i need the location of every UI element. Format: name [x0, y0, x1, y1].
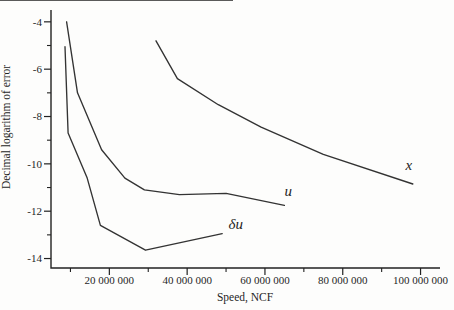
y-tick-label: -6 [33, 63, 43, 75]
curve-label-delta-u: δu [229, 216, 243, 232]
x-tick-label: 40 000 000 [162, 274, 212, 286]
y-tick-label: -14 [27, 252, 42, 264]
y-axis-title: Decimal logarithm of error [0, 65, 13, 189]
x-tick-label: 20 000 000 [85, 274, 135, 286]
series-line-x [156, 41, 413, 184]
x-tick-label: 60 000 000 [240, 274, 290, 286]
chart-canvas: 20 000 00040 000 00060 000 00080 000 000… [0, 0, 454, 310]
y-tick-label: -12 [27, 205, 42, 217]
axis-spine [51, 10, 440, 268]
curve-label-x: x [405, 157, 413, 173]
series-line-u [67, 22, 285, 206]
y-tick-label: -8 [33, 110, 43, 122]
curve-label-u: u [285, 183, 293, 199]
figure: 20 000 00040 000 00060 000 00080 000 000… [0, 0, 454, 310]
x-tick-label: 100 000 000 [393, 274, 449, 286]
y-tick-label: -10 [27, 158, 42, 170]
x-tick-label: 80 000 000 [318, 274, 368, 286]
series-layer: xuδu [65, 22, 413, 250]
y-tick-label: -4 [33, 16, 43, 28]
x-axis-title: Speed, NCF [217, 291, 273, 304]
axes-layer: 20 000 00040 000 00060 000 00080 000 000… [27, 10, 448, 286]
series-line-delta-u [65, 47, 222, 251]
